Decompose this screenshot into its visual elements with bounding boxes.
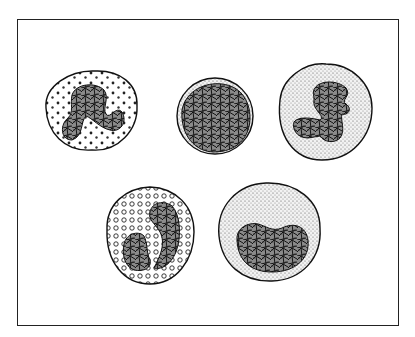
lymphocyte-cell	[177, 78, 253, 154]
monocyte-cell	[279, 64, 372, 160]
large-lymphocyte-cell	[219, 183, 320, 281]
neutrophil-cell	[46, 71, 137, 150]
eosinophil-cell	[107, 187, 194, 284]
cell-illustration	[0, 0, 415, 337]
